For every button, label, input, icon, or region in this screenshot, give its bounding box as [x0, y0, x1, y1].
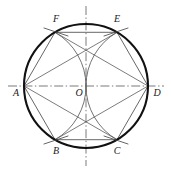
- construction-diagram-canvas: A F E D C B O: [0, 0, 171, 171]
- hexagon-side-a-f: [24, 32, 55, 86]
- label-point-o: O: [75, 87, 82, 98]
- vertex-labels-group: A F E D C B O: [12, 13, 161, 156]
- geometry-figure: A F E D C B O: [0, 0, 171, 171]
- diagonal-a-c: [24, 86, 117, 140]
- hexagon-side-d-c: [117, 86, 148, 140]
- hexagon-side-e-d: [117, 32, 148, 86]
- label-point-e: E: [113, 13, 120, 24]
- label-point-d: D: [152, 87, 161, 98]
- diagonal-d-f: [55, 32, 148, 86]
- label-point-a: A: [12, 87, 20, 98]
- label-point-f: F: [52, 13, 60, 24]
- diagonal-a-e: [24, 32, 117, 86]
- diagonal-d-b: [55, 86, 148, 140]
- hexagon-side-b-a: [24, 86, 55, 140]
- label-point-b: B: [53, 145, 59, 156]
- label-point-c: C: [114, 145, 121, 156]
